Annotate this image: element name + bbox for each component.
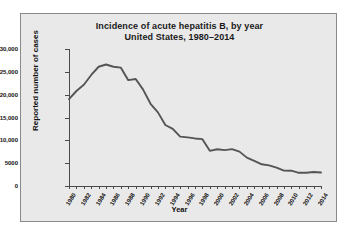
x-axis-tick [121, 186, 122, 189]
x-axis-tick [247, 186, 248, 189]
y-axis-tick-label: 15,000 [0, 115, 18, 121]
x-axis-tick [284, 186, 285, 189]
x-axis-tick [188, 186, 189, 189]
y-axis-tick-label: 5000 [0, 160, 18, 166]
x-axis-tick [99, 186, 100, 189]
x-axis-tick [165, 186, 166, 189]
x-axis-tick [262, 186, 263, 189]
y-axis-tick [65, 72, 69, 73]
x-axis-tick [306, 186, 307, 189]
y-axis-tick [65, 140, 69, 141]
x-axis-tick [299, 186, 300, 189]
hepatitis-b-incidence-line [69, 64, 321, 172]
y-axis-tick-label: 10,000 [0, 137, 18, 143]
plot-area: 0500010,00015,00020,00025,00030,00019801… [69, 49, 321, 186]
x-axis-tick [91, 186, 92, 189]
x-axis-tick [210, 186, 211, 189]
x-axis-tick [239, 186, 240, 189]
x-axis-tick [151, 186, 152, 189]
x-axis-tick [106, 186, 107, 189]
y-axis-tick-label: 20,000 [0, 92, 18, 98]
x-axis-tick [143, 186, 144, 189]
x-axis-tick [173, 186, 174, 189]
x-axis-tick [291, 186, 292, 189]
y-axis-tick [65, 49, 69, 50]
chart-panel: Incidence of acute hepatitis B, by year … [20, 13, 337, 222]
x-axis-tick [113, 186, 114, 189]
x-axis-tick [217, 186, 218, 189]
y-axis-title: Reported number of cases [31, 21, 40, 141]
chart-title: Incidence of acute hepatitis B, by year … [21, 21, 338, 43]
x-axis-tick [269, 186, 270, 189]
y-axis-tick-label: 30,000 [0, 46, 18, 52]
x-axis-tick [180, 186, 181, 189]
x-axis-tick [314, 186, 315, 189]
x-axis-tick [321, 186, 322, 189]
y-axis-tick [65, 118, 69, 119]
x-axis-tick [232, 186, 233, 189]
x-axis-tick [69, 186, 70, 189]
chart-title-line1: Incidence of acute hepatitis B, by year [21, 21, 338, 32]
x-axis-title: Year [21, 205, 338, 214]
x-axis-tick [254, 186, 255, 189]
x-axis-tick [128, 186, 129, 189]
x-axis-tick [202, 186, 203, 189]
x-axis-tick [136, 186, 137, 189]
y-axis-tick [65, 95, 69, 96]
x-axis-tick [158, 186, 159, 189]
x-axis-tick [84, 186, 85, 189]
x-axis-tick [76, 186, 77, 189]
y-axis-tick-label: 25,000 [0, 69, 18, 75]
data-line-series [69, 49, 321, 186]
x-axis-tick [225, 186, 226, 189]
x-axis-tick [195, 186, 196, 189]
y-axis-tick-label: 0 [0, 183, 18, 189]
chart-title-line2: United States, 1980–2014 [21, 32, 338, 43]
y-axis-tick [65, 163, 69, 164]
x-axis-tick [277, 186, 278, 189]
